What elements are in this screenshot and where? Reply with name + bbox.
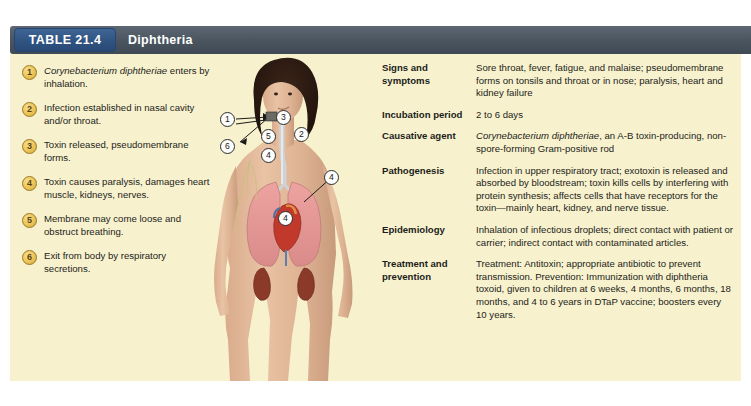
row-value-signs-and-symptoms: Sore throat, fever, fatigue, and malaise… <box>476 62 734 100</box>
pathogenesis-steps-list: 1 Corynebacterium diphtheriae enters by … <box>20 64 210 286</box>
step-number-badge: 4 <box>22 176 37 191</box>
table-content-panel: 1 Corynebacterium diphtheriae enters by … <box>10 54 741 381</box>
row-value-incubation-period: 2 to 6 days <box>476 109 734 122</box>
disease-details-table: Signs and symptoms Sore throat, fever, f… <box>382 62 734 330</box>
step-organism-name: Corynebacterium diphtheriae <box>44 65 167 76</box>
table-number-badge: TABLE 21.4 <box>14 28 116 52</box>
row-value-causative-agent: Corynebacterium diphtheriae, an A-B toxi… <box>476 130 734 155</box>
list-item: 3 Toxin released, pseudomembrane forms. <box>20 138 210 164</box>
callout-3: 3 <box>276 110 291 125</box>
causative-agent-species: Corynebacterium diphtheriae <box>476 130 599 141</box>
callout-4-neck: 4 <box>261 148 276 163</box>
table-row: Causative agent Corynebacterium diphther… <box>382 130 734 155</box>
table-figure-page: TABLE 21.4 Diphtheria 1 Corynebacterium … <box>0 0 751 406</box>
step-number-badge: 3 <box>22 139 37 154</box>
table-row: Signs and symptoms Sore throat, fever, f… <box>382 62 734 100</box>
table-row: Epidemiology Inhalation of infectious dr… <box>382 224 734 249</box>
step-text: Infection established in nasal cavity an… <box>44 101 210 127</box>
step-text: Toxin released, pseudomembrane forms. <box>44 138 210 164</box>
list-item: 1 Corynebacterium diphtheriae enters by … <box>20 64 210 90</box>
row-label-pathogenesis: Pathogenesis <box>382 165 476 178</box>
step-number-badge: 1 <box>22 65 37 80</box>
callout-1: 1 <box>220 112 235 127</box>
table-title: Diphtheria <box>128 28 193 52</box>
row-label-causative-agent: Causative agent <box>382 130 476 143</box>
anatomy-illustration: 1 6 3 5 2 4 4 4 <box>206 54 378 381</box>
row-label-incubation-period: Incubation period <box>382 109 476 122</box>
step-text: Toxin causes paralysis, damages heart mu… <box>44 175 210 201</box>
callout-4-kidney: 4 <box>278 211 293 226</box>
callout-6: 6 <box>220 139 235 154</box>
step-text: Corynebacterium diphtheriae enters by in… <box>44 64 210 90</box>
step-number-badge: 6 <box>22 250 37 265</box>
list-item: 4 Toxin causes paralysis, damages heart … <box>20 175 210 201</box>
list-item: 5 Membrane may come loose and obstruct b… <box>20 212 210 238</box>
row-label-treatment-and-prevention: Treatment and prevention <box>382 258 476 283</box>
list-item: 2 Infection established in nasal cavity … <box>20 101 210 127</box>
table-row: Treatment and prevention Treatment: Anti… <box>382 258 734 321</box>
table-row: Pathogenesis Infection in upper respirat… <box>382 165 734 215</box>
step-text: Exit from body by respiratory secretions… <box>44 249 210 275</box>
table-header-bar <box>10 26 751 54</box>
step-number-badge: 2 <box>22 102 37 117</box>
callout-5: 5 <box>261 129 276 144</box>
table-row: Incubation period 2 to 6 days <box>382 109 734 122</box>
table-number-label: TABLE 21.4 <box>29 33 102 47</box>
list-item: 6 Exit from body by respiratory secretio… <box>20 249 210 275</box>
callout-4-heart: 4 <box>324 170 339 185</box>
row-value-treatment-and-prevention: Treatment: Antitoxin; appropriate antibi… <box>476 258 734 321</box>
row-value-pathogenesis: Infection in upper respiratory tract; ex… <box>476 165 734 215</box>
row-label-epidemiology: Epidemiology <box>382 224 476 237</box>
callout-2: 2 <box>294 127 309 142</box>
step-text: Membrane may come loose and obstruct bre… <box>44 212 210 238</box>
row-value-epidemiology: Inhalation of infectious droplets; direc… <box>476 224 734 249</box>
row-label-signs-and-symptoms: Signs and symptoms <box>382 62 476 87</box>
step-number-badge: 5 <box>22 213 37 228</box>
